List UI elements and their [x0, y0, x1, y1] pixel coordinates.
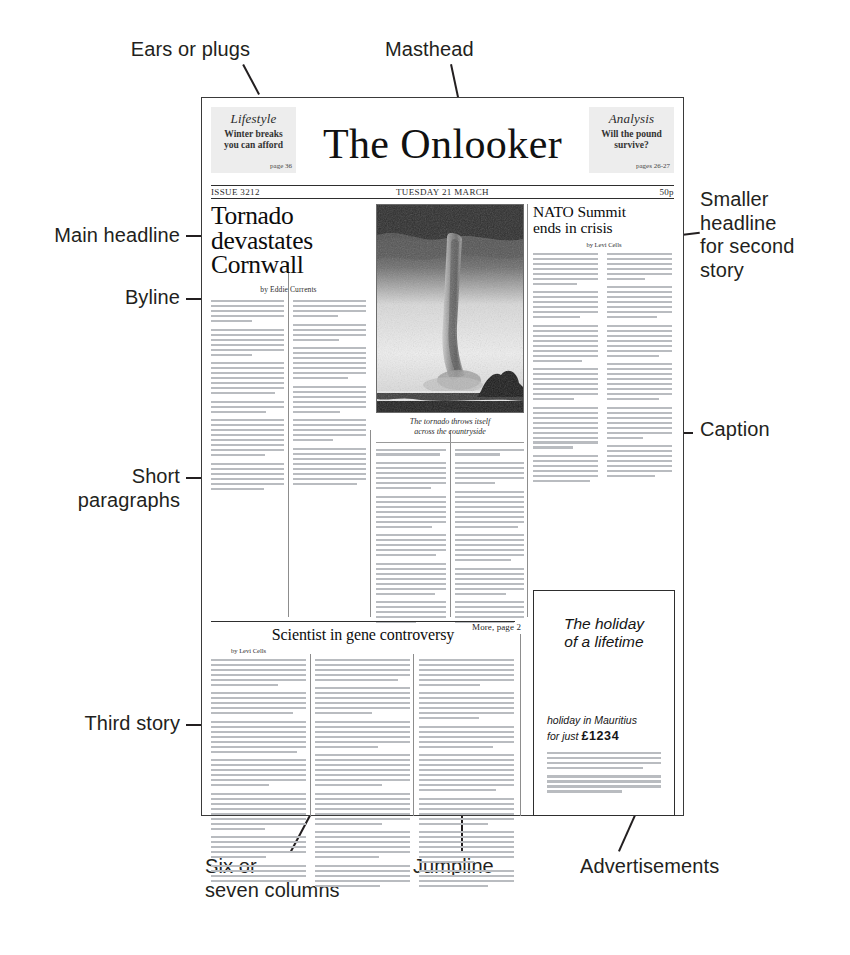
greek-line: [607, 296, 672, 298]
greek-paragraph: [211, 329, 284, 356]
greek-line: [315, 831, 410, 833]
greek-line: [376, 568, 446, 570]
greek-line: [419, 741, 514, 743]
greek-line: [315, 687, 410, 689]
greek-line: [419, 731, 514, 733]
greek-line: [293, 362, 366, 364]
greek-line: [211, 439, 284, 441]
second-story-byline: by Levi Cells: [533, 241, 675, 248]
publication-date: TUESDAY 21 MARCH: [350, 187, 535, 197]
lead-photo-block: The tornado throws itself across the cou…: [376, 204, 524, 630]
greek-line: [293, 429, 366, 431]
greek-paragraph: [211, 463, 284, 490]
greek-line: [533, 470, 598, 472]
greek-line: [376, 593, 435, 595]
greek-line: [211, 793, 306, 795]
greek-line: [376, 526, 432, 528]
greek-paragraph: [607, 253, 672, 280]
issue-number: ISSUE 3212: [211, 187, 350, 197]
greek-line: [315, 759, 410, 761]
greek-line: [533, 345, 598, 347]
greek-line: [419, 818, 514, 820]
greek-line: [419, 774, 514, 776]
greek-line: [315, 764, 410, 766]
greek-line: [607, 311, 672, 313]
greek-line: [211, 429, 284, 431]
advertisement-box[interactable]: The holiday of a lifetime holiday in Mau…: [533, 590, 675, 816]
second-story-headline: NATO Summit ends in crisis: [533, 204, 675, 236]
greek-line: [533, 296, 598, 298]
greek-paragraph: [455, 601, 525, 623]
greek-line: [315, 712, 372, 714]
greek-line: [211, 444, 284, 446]
greek-paragraph: [315, 721, 410, 748]
greek-line: [607, 398, 659, 400]
greek-line: [211, 803, 306, 805]
greek-line: [533, 427, 598, 429]
greek-line: [211, 310, 284, 312]
greek-line: [211, 354, 252, 356]
greek-line: [607, 306, 672, 308]
greek-line: [293, 324, 366, 326]
greek-line: [293, 367, 366, 369]
third-story-rule: [211, 621, 515, 622]
second-headline-line1: NATO Summit: [533, 204, 675, 220]
greek-line: [607, 412, 672, 414]
greek-line: [533, 278, 598, 280]
greek-line: [533, 388, 598, 390]
greek-line: [293, 439, 333, 441]
greek-line: [293, 424, 366, 426]
greek-line: [376, 521, 446, 523]
greek-line: [547, 785, 661, 787]
greek-line: [315, 721, 410, 723]
greek-line: [419, 851, 514, 853]
greek-line: [211, 818, 306, 820]
greek-line: [419, 803, 514, 805]
third-story-columns: [211, 659, 515, 894]
greek-line: [376, 453, 440, 455]
greek-line: [419, 813, 514, 815]
body-column: [211, 300, 284, 496]
greek-line: [607, 378, 672, 380]
greek-line: [315, 669, 410, 671]
greek-line: [533, 455, 598, 457]
leader-line-ears: [243, 64, 260, 95]
greek-line: [211, 741, 306, 743]
greek-line: [376, 573, 446, 575]
greek-paragraph: [293, 324, 366, 341]
greek-line: [533, 432, 598, 434]
greek-line: [419, 764, 514, 766]
greek-paragraph: [211, 759, 306, 786]
greek-line: [419, 717, 479, 719]
greek-line: [211, 488, 264, 490]
photo-below-columns: [376, 449, 524, 630]
greek-paragraph: [607, 407, 672, 439]
greek-paragraph: [419, 870, 514, 887]
greek-line: [455, 482, 495, 484]
greek-line: [211, 759, 306, 761]
greek-line: [419, 861, 474, 863]
ear-left-lifestyle[interactable]: Lifestyle Winter breaks you can afford p…: [211, 107, 296, 173]
greek-paragraph: [607, 445, 672, 477]
annotation-caption: Caption: [700, 418, 850, 442]
greek-line: [211, 434, 284, 436]
greek-line: [419, 784, 514, 786]
greek-line: [376, 601, 446, 603]
ear-right-analysis[interactable]: Analysis Will the pound survive? pages 2…: [589, 107, 674, 173]
greek-line: [315, 841, 410, 843]
ear-left-line2: you can afford: [211, 140, 296, 151]
greek-line: [455, 521, 525, 523]
greek-line: [455, 506, 525, 508]
greek-line: [455, 467, 525, 469]
column-rule-4: [527, 204, 528, 617]
body-column: [607, 253, 672, 489]
greek-line: [211, 669, 306, 671]
greek-line: [607, 286, 672, 288]
greek-line: [607, 373, 672, 375]
greek-line: [419, 823, 488, 825]
greek-line: [293, 419, 366, 421]
advert-price-prefix: for just: [547, 730, 581, 742]
greek-line: [211, 684, 278, 686]
annotation-third-story: Third story: [0, 712, 180, 736]
greek-line: [607, 437, 643, 439]
